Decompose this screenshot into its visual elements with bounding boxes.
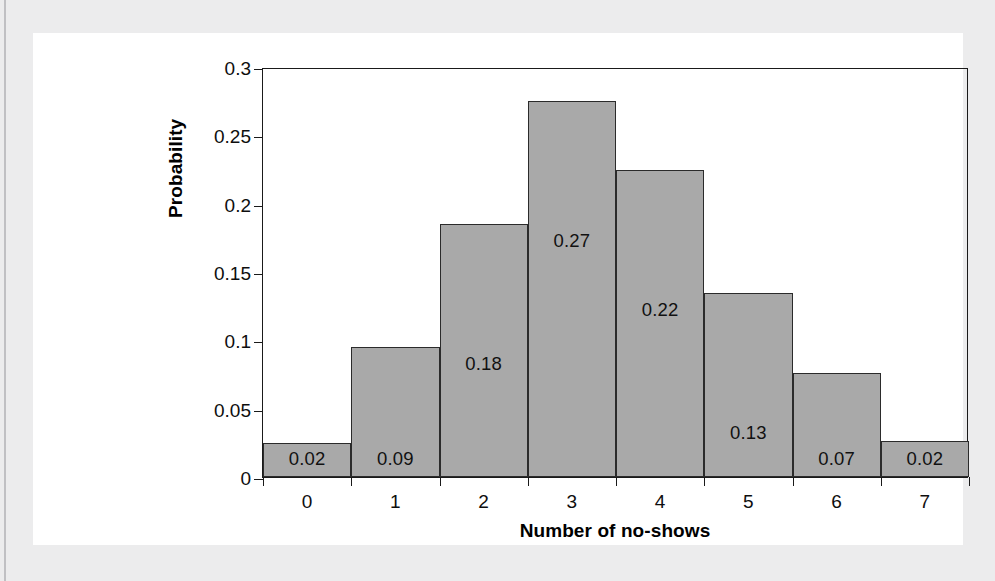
y-axis-tick-label: 0.3	[225, 58, 251, 80]
y-axis-tick-label: 0	[240, 468, 251, 490]
bar-value-label: 0.13	[705, 422, 791, 444]
x-axis-tick-label: 5	[743, 491, 754, 513]
y-axis-tick-label: 0.25	[214, 126, 251, 148]
x-axis-tick	[616, 477, 617, 486]
y-axis-tick	[254, 342, 263, 343]
bar: 0.18	[440, 224, 528, 477]
bar-value-label: 0.07	[794, 448, 880, 470]
y-axis-tick	[254, 69, 263, 70]
x-axis-title: Number of no-shows	[262, 520, 968, 542]
x-axis-tick	[704, 477, 705, 486]
x-axis-tick	[263, 477, 264, 486]
bar-value-label: 0.27	[529, 230, 615, 252]
x-axis-tick-label: 6	[831, 491, 842, 513]
bar: 0.13	[704, 293, 792, 478]
figure-card: 0.020.090.180.270.220.130.070.02 00.050.…	[33, 33, 963, 545]
plot-area: 0.020.090.180.270.220.130.070.02 00.050.…	[262, 68, 968, 478]
x-axis-tick	[440, 477, 441, 486]
page-left-rule	[4, 0, 6, 581]
x-axis-tick-label: 1	[390, 491, 401, 513]
bar-value-label: 0.02	[882, 448, 968, 470]
x-axis-tick	[528, 477, 529, 486]
y-axis-tick-label: 0.2	[225, 195, 251, 217]
bar: 0.22	[616, 170, 704, 478]
x-axis-tick-label: 4	[655, 491, 666, 513]
y-axis-tick	[254, 206, 263, 207]
y-axis-tick	[254, 411, 263, 412]
bar: 0.07	[793, 373, 881, 477]
bar-value-label: 0.22	[617, 299, 703, 321]
y-axis-tick-label: 0.1	[225, 331, 251, 353]
y-axis-tick-label: 0.15	[214, 263, 251, 285]
y-axis-tick	[254, 137, 263, 138]
x-axis-tick-label: 2	[478, 491, 489, 513]
bar: 0.02	[881, 441, 969, 477]
bar: 0.27	[528, 101, 616, 477]
x-axis-tick	[793, 477, 794, 486]
y-axis-tick	[254, 479, 263, 480]
x-axis-tick	[969, 477, 970, 486]
x-axis-tick-label: 3	[567, 491, 578, 513]
y-axis-tick-label: 0.05	[214, 400, 251, 422]
y-axis-title: Probability	[165, 119, 187, 218]
x-axis-tick	[881, 477, 882, 486]
x-axis-tick-label: 7	[920, 491, 931, 513]
bar-series: 0.020.090.180.270.220.130.070.02	[263, 69, 967, 477]
bar-value-label: 0.09	[352, 448, 438, 470]
x-axis-tick	[351, 477, 352, 486]
bar: 0.02	[263, 443, 351, 477]
y-axis-tick	[254, 274, 263, 275]
bar-value-label: 0.18	[441, 353, 527, 375]
bar: 0.09	[351, 347, 439, 477]
bar-value-label: 0.02	[264, 448, 350, 470]
x-axis-tick-label: 0	[302, 491, 313, 513]
